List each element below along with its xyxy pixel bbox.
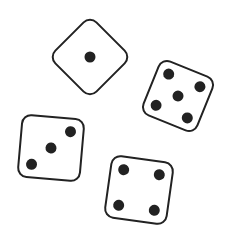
die-five (140, 58, 216, 134)
die-face (104, 155, 174, 225)
dice-illustration (0, 0, 235, 236)
die-four (104, 155, 174, 225)
die-one (49, 16, 131, 98)
die-three (17, 114, 84, 181)
